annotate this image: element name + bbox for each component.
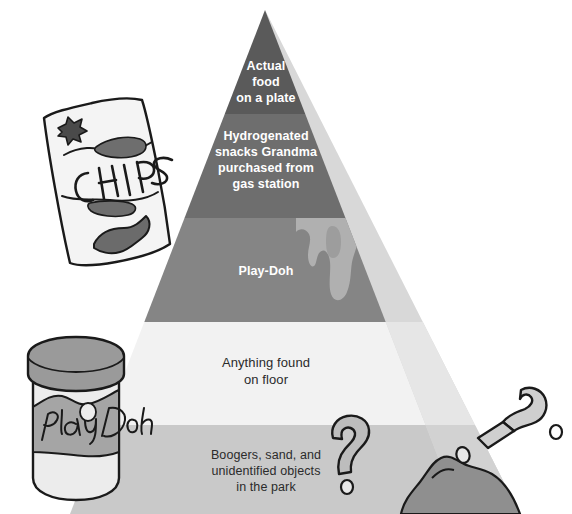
pyramid-canvas (0, 0, 572, 514)
question-mark-lower-hook (503, 388, 546, 431)
question-mark-upper-dot (341, 480, 353, 494)
question-mark-lower-tail (478, 422, 514, 448)
food-pyramid-figure: Actual food on a plate Hydrogenated snac… (0, 0, 572, 514)
chips-bag-illustration (44, 98, 172, 265)
playdoh-jar-label-dot (80, 403, 96, 421)
playdoh-jar-lid (28, 337, 124, 391)
playdoh-drip-finger (326, 226, 341, 258)
question-mark-stray-dot (550, 425, 562, 439)
